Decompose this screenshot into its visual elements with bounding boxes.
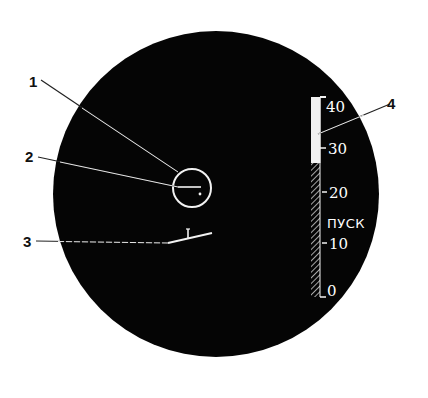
- launch-label: ПУСК: [327, 216, 365, 231]
- scale-label-10: 10: [329, 235, 348, 253]
- scale-label-20: 20: [329, 184, 348, 202]
- callout-3: 3: [23, 233, 31, 250]
- callout-4: 4: [387, 95, 396, 112]
- target-dot: [199, 193, 202, 196]
- range-scale-bar-hatched: [311, 163, 320, 297]
- range-scale-bar-filled: [311, 97, 320, 163]
- sight-diagram: 40 30 20 ПУСК 10 0 1 2 3 4: [0, 0, 428, 398]
- callout-1: 1: [29, 73, 37, 90]
- callout-2: 2: [25, 148, 33, 165]
- scale-label-30: 30: [328, 140, 347, 158]
- scale-label-40: 40: [326, 98, 345, 116]
- scale-label-0: 0: [327, 282, 337, 300]
